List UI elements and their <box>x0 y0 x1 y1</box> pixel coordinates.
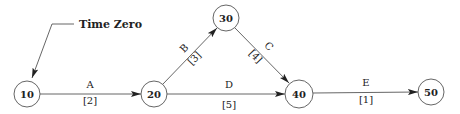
arrow-icon <box>313 92 418 93</box>
node-label: 50 <box>424 87 438 98</box>
node-40: 40 <box>285 80 313 108</box>
duration-label: [2] <box>83 95 97 106</box>
activity-label: B <box>178 42 191 55</box>
node-label: 30 <box>219 13 233 24</box>
time-zero-callout: Time Zero <box>32 18 142 78</box>
activity-label: E <box>362 77 369 88</box>
duration-label: [5] <box>222 99 236 110</box>
duration-label: [4] <box>247 47 265 65</box>
activity-label: D <box>225 79 233 90</box>
activity-label: C <box>262 40 275 53</box>
edge-E: E [1] <box>313 77 418 105</box>
node-20: 20 <box>141 81 167 107</box>
activity-label: A <box>85 79 94 90</box>
edge-C: C [4] <box>235 28 289 83</box>
network-diagram: Time Zero A [2] B [3] C [4] D [5] E [1] … <box>0 0 460 114</box>
node-label: 20 <box>147 89 161 100</box>
node-30: 30 <box>213 5 239 31</box>
edge-B: B [3] <box>163 28 217 84</box>
time-zero-label: Time Zero <box>79 18 142 31</box>
node-label: 40 <box>292 89 306 100</box>
duration-label: [1] <box>359 94 373 105</box>
duration-label: [3] <box>185 49 203 67</box>
node-label: 10 <box>20 89 34 100</box>
edge-A: A [2] <box>40 79 141 106</box>
edge-D: D [5] <box>167 79 285 110</box>
node-50: 50 <box>418 79 444 105</box>
callout-arrow-icon <box>32 24 74 78</box>
node-10: 10 <box>14 81 40 107</box>
